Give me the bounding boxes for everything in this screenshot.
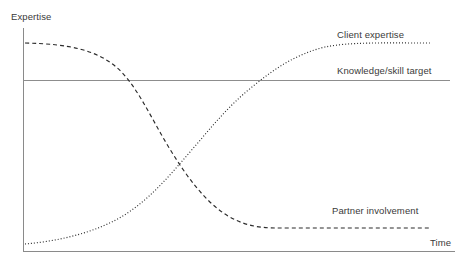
x-axis-label: Time <box>430 237 451 248</box>
knowledge-target-label: Knowledge/skill target <box>337 65 432 76</box>
y-axis-label: Expertise <box>11 11 52 22</box>
partner-involvement-label: Partner involvement <box>332 205 418 216</box>
client-expertise-label: Client expertise <box>337 29 404 40</box>
chart-figure: Expertise Time Client expertise Knowledg… <box>0 0 468 266</box>
